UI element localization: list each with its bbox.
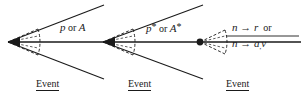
particle-label-2-alt: A (170, 22, 177, 34)
event-label-2-wrap: Event (128, 74, 151, 90)
decay-label-2-product2: v (261, 37, 266, 49)
particle-event-diagram: p or A p* or A* n → r or n → a,v Event E… (0, 0, 303, 102)
dashed-cone-3-inner-upper (200, 36, 225, 42)
event-label-1: Event (36, 78, 59, 91)
decay-label-1-conjunction: or (263, 22, 271, 33)
event-label-3: Event (226, 78, 249, 91)
vertex-2 (103, 37, 115, 47)
arrow-right-icon-2: → (240, 37, 251, 49)
vertex-1 (8, 37, 20, 47)
event-label-3-wrap: Event (226, 74, 249, 90)
particle-label-1-alt: A (79, 21, 86, 33)
dashed-cone-3-lower-edge (200, 42, 225, 54)
decay-label-line-2: n → a,v (232, 38, 266, 51)
particle-label-2: p* or A* (146, 22, 182, 34)
arrow-right-icon: → (240, 21, 251, 33)
particle-label-1: p or A (60, 22, 86, 33)
vertex-3 (197, 39, 204, 46)
decay-label-line-1: n → r or (232, 22, 272, 33)
dashed-cone-3-upper-edge (200, 30, 225, 42)
wide-cone-2-lower-edge (103, 42, 203, 79)
particle-label-2-star-alt: * (177, 21, 182, 32)
wide-cone-1-upper-edge (8, 5, 104, 42)
event-label-1-wrap: Event (36, 74, 59, 90)
dashed-cone-3-inner-lower (200, 42, 225, 48)
event-label-2: Event (128, 78, 151, 91)
